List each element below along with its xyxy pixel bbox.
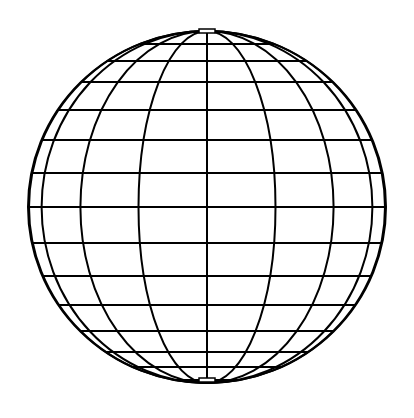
north-pole-cap xyxy=(199,29,215,33)
south-pole-cap xyxy=(199,378,215,382)
wireframe-globe xyxy=(0,0,414,418)
diagram-canvas: Wireframe globe xyxy=(0,0,414,418)
